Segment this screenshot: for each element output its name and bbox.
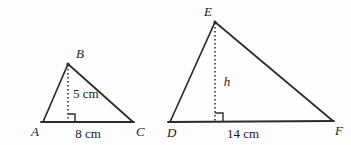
- triangle-def-right-angle-icon: [215, 113, 223, 121]
- triangle-abc-vertex-label-c: C: [136, 124, 145, 139]
- triangle-def-base-df: [168, 121, 334, 122]
- triangle-abc-altitude-label: 5 cm: [73, 86, 99, 101]
- triangle-def-base-label: 14 cm: [227, 126, 259, 141]
- triangle-abc-vertex-label-b: B: [76, 46, 84, 61]
- triangle-def-altitude-label: h: [224, 74, 231, 89]
- geometry-figure: A B C 5 cm 8 cm D E F h 14 cm: [0, 0, 351, 145]
- triangle-abc: A B C 5 cm 8 cm: [30, 46, 145, 141]
- figure-canvas: A B C 5 cm 8 cm D E F h 14 cm: [0, 0, 351, 145]
- triangle-abc-right-angle-icon: [68, 114, 75, 121]
- triangle-abc-vertex-label-a: A: [30, 124, 39, 139]
- triangle-abc-base-label: 8 cm: [75, 126, 101, 141]
- triangle-def-vertex-label-f: F: [334, 123, 344, 138]
- triangle-def-side-de: [170, 22, 215, 122]
- triangle-def-vertex-label-d: D: [166, 125, 177, 140]
- triangle-abc-side-ab: [43, 64, 68, 122]
- triangle-def-vertex-label-e: E: [203, 4, 212, 19]
- triangle-def: D E F h 14 cm: [166, 4, 344, 141]
- triangle-def-side-ef: [215, 22, 333, 121]
